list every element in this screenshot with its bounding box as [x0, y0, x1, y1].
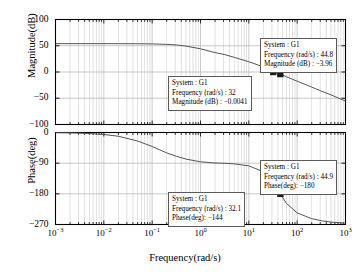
datatip-system-line: System : G1 [264, 41, 333, 51]
phase-ytick-label: −270 [0, 219, 49, 229]
frequency-xtick-label: 102 [282, 228, 312, 238]
datatip-frequency-line: Frequency (rad/s) : 32.1 [172, 205, 241, 215]
bode-plot-figure: Magnitude(dB) Phase(deg) Frequency(rad/s… [0, 0, 359, 274]
datatip-frequency-line: Frequency (rad/s) : 44.8 [264, 51, 333, 61]
phase-datatip-44hz[interactable]: System : G1 Frequency (rad/s) : 44.9 Pha… [260, 160, 337, 195]
frequency-xtick-label: 100 [186, 228, 216, 238]
frequency-xtick-label: 10−3 [41, 228, 71, 238]
frequency-xtick-label: 10−1 [137, 228, 167, 238]
datatip-system-line: System : G1 [172, 79, 248, 89]
magnitude-ytick-label: −50 [0, 92, 49, 102]
frequency-axis-label: Frequency(rad/s) [110, 252, 260, 263]
phase-ytick-label: −180 [0, 188, 49, 198]
datatip-frequency-line: Frequency (rad/s) : 32 [172, 89, 248, 99]
datatip-system-line: System : G1 [172, 195, 241, 205]
phase-ytick-label: −90 [0, 157, 49, 167]
datatip-system-line: System : G1 [264, 163, 333, 173]
datatip-magnitude-line: Magnitude (dB) : −3.96 [264, 60, 333, 70]
magnitude-ytick-label: 0 [0, 66, 49, 76]
magnitude-ytick-label: 50 [0, 40, 49, 50]
frequency-xtick-label: 10−2 [89, 228, 119, 238]
phase-ytick-label: 0 [0, 127, 49, 137]
phase-datatip-32hz[interactable]: System : G1 Frequency (rad/s) : 32.1 Pha… [168, 192, 245, 227]
frequency-xtick-label: 101 [234, 228, 264, 238]
magnitude-ytick-label: 100 [0, 14, 49, 24]
datatip-frequency-line: Frequency (rad/s) : 44.9 [264, 173, 333, 183]
magnitude-datatip-32hz[interactable]: System : G1 Frequency (rad/s) : 32 Magni… [168, 76, 252, 111]
frequency-xtick-label: 103 [331, 228, 359, 238]
datatip-phase-line: Phase(deg): −180 [264, 182, 333, 192]
magnitude-datatip-44hz[interactable]: System : G1 Frequency (rad/s) : 44.8 Mag… [260, 38, 337, 73]
datatip-phase-line: Phase(deg): −144 [172, 214, 241, 224]
datatip-magnitude-line: Magnitude (dB) : −0.0041 [172, 98, 248, 108]
